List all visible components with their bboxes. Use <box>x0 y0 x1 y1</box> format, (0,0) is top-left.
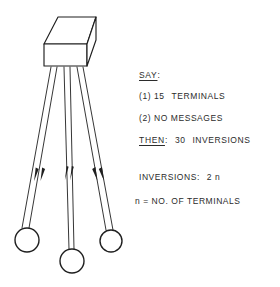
link-line-mid-b <box>70 67 74 249</box>
annotation-notes: SAY: (1)15TERMINALS (2)NO MESSAGES THEN:… <box>139 70 280 206</box>
item-2-marker: (2) <box>139 113 151 123</box>
link-lines <box>22 67 113 249</box>
inversions-label: INVERSIONS: <box>139 172 200 182</box>
box-front-face <box>44 44 87 66</box>
say-label: SAY <box>139 70 157 80</box>
item-1-marker: (1) <box>139 91 151 101</box>
say-colon: : <box>157 70 160 80</box>
arrowhead-right-a <box>92 167 97 181</box>
note-then-result: THEN:30INVERSIONS <box>139 135 280 145</box>
item-1-count: 15 <box>154 91 165 101</box>
arrowhead-mid-b <box>70 166 74 180</box>
note-item-1: (1)15TERMINALS <box>139 91 280 101</box>
terminal-left-circle <box>15 228 39 252</box>
inversions-value: 2 n <box>207 172 220 182</box>
terminal-middle-circle <box>60 249 84 273</box>
link-line-mid-a <box>64 67 69 249</box>
note-inversions-formula: INVERSIONS:2 n <box>139 172 280 182</box>
then-count: 30 <box>175 135 186 145</box>
terminal-right-circle <box>100 230 122 252</box>
then-colon: : <box>165 135 168 145</box>
diagram-page: SAY: (1)15TERMINALS (2)NO MESSAGES THEN:… <box>0 0 280 287</box>
item-2-text: NO MESSAGES <box>154 113 223 123</box>
link-line-left-a <box>22 67 51 228</box>
then-label: THEN <box>139 135 165 145</box>
item-1-text: TERMINALS <box>172 91 226 101</box>
arrowhead-left-b <box>41 168 46 182</box>
note-say-heading: SAY: <box>139 70 280 80</box>
note-item-2: (2)NO MESSAGES <box>139 113 280 123</box>
link-line-right-b <box>83 67 113 230</box>
link-arrowheads <box>34 166 104 181</box>
link-line-right-a <box>77 67 106 230</box>
central-unit-box <box>44 17 96 66</box>
note-n-definition: n = NO. OF TERMINALS <box>135 196 280 206</box>
link-line-left-b <box>29 67 57 228</box>
arrowhead-right-b <box>99 167 104 181</box>
then-text: INVERSIONS <box>192 135 250 145</box>
